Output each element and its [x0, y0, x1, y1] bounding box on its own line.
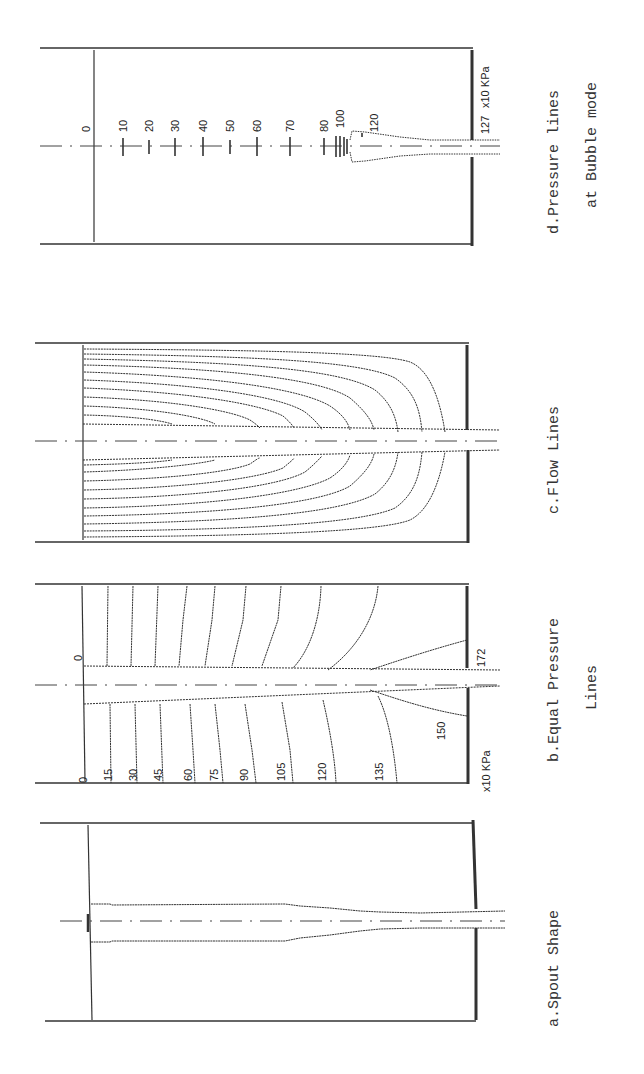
svg-text:150: 150 — [435, 722, 447, 740]
svg-text:105: 105 — [275, 763, 287, 781]
svg-text:30: 30 — [127, 769, 139, 781]
svg-text:100: 100 — [334, 110, 346, 128]
caption-b-line1: b.Equal Pressure — [546, 618, 563, 762]
svg-text:135: 135 — [373, 763, 385, 781]
svg-text:10: 10 — [117, 120, 129, 132]
svg-text:0: 0 — [80, 126, 92, 132]
panel-d-labels: 0 10 20 30 40 50 60 70 80 100 120 127 x1… — [80, 66, 491, 134]
svg-text:60: 60 — [251, 120, 263, 132]
svg-text:45: 45 — [152, 769, 164, 781]
svg-text:172: 172 — [475, 649, 487, 667]
svg-text:15: 15 — [102, 769, 114, 781]
caption-a: a.Spout Shape — [546, 910, 563, 1027]
svg-text:127: 127 — [479, 116, 491, 134]
panel-c — [35, 343, 505, 543]
svg-text:0: 0 — [72, 655, 84, 661]
svg-text:60: 60 — [182, 769, 194, 781]
svg-text:30: 30 — [169, 120, 181, 132]
svg-text:75: 75 — [208, 769, 220, 781]
svg-text:40: 40 — [197, 120, 209, 132]
svg-text:90: 90 — [238, 769, 250, 781]
caption-c: c.Flow Lines — [546, 406, 563, 514]
caption-d-line1: d.Pressure lines — [546, 90, 563, 234]
svg-text:x10 KPa: x10 KPa — [479, 66, 491, 108]
panel-d — [40, 48, 500, 246]
svg-text:20: 20 — [143, 120, 155, 132]
svg-text:120: 120 — [316, 763, 328, 781]
svg-text:70: 70 — [284, 120, 296, 132]
panel-b — [35, 584, 505, 784]
panel-a — [40, 820, 505, 1021]
caption-d-line2: at Bubble mode — [584, 82, 601, 208]
svg-text:80: 80 — [318, 120, 330, 132]
svg-text:120: 120 — [368, 114, 380, 132]
svg-text:50: 50 — [224, 120, 236, 132]
svg-text:0: 0 — [77, 777, 89, 783]
caption-b-line2: Lines — [584, 665, 601, 710]
svg-text:x10 KPa: x10 KPa — [480, 750, 492, 792]
